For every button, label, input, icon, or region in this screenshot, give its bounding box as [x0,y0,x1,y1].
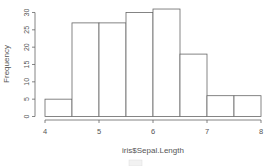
y-tick-label: 20 [23,43,30,51]
y-tick-label: 30 [23,8,30,16]
histogram-bar [45,99,72,116]
y-tick-label: 5 [23,97,30,101]
x-axis-label: iris$Sepal.Length [122,146,184,155]
histogram-bar [207,96,234,117]
histogram-bar [180,54,207,116]
x-tick-label: 7 [205,127,209,136]
y-axis: 051015202530 [23,8,35,118]
y-tick-label: 25 [23,26,30,34]
x-tick-label: 4 [43,127,47,136]
histogram-bar [153,9,180,116]
histogram-chart: 051015202530 45678 Frequency iris$Sepal.… [0,0,265,166]
histogram-bar [126,12,153,116]
histogram-bar [99,23,126,117]
y-axis-label: Frequency [2,45,11,83]
y-tick-label: 10 [23,78,30,86]
x-axis: 45678 [43,120,263,136]
y-tick-label: 15 [23,61,30,69]
histogram-bars [45,9,261,116]
x-tick-label: 6 [151,127,155,136]
x-tick-label: 8 [259,127,263,136]
scroll-indicator [129,160,142,166]
x-tick-label: 5 [97,127,101,136]
histogram-bar [72,23,99,117]
y-tick-label: 0 [23,114,30,118]
histogram-bar [234,96,261,117]
